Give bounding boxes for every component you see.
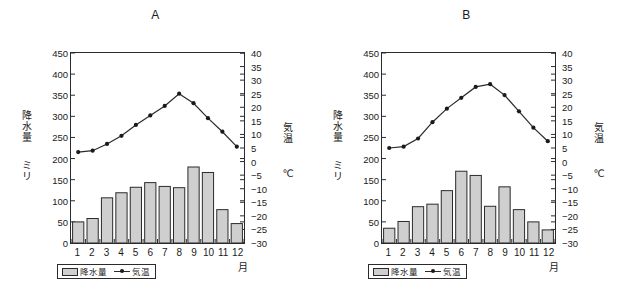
bar-swatch-icon bbox=[373, 268, 389, 276]
x-axis-unit-b: 月 bbox=[549, 259, 559, 274]
y-tick-label: 350 bbox=[349, 90, 379, 101]
precipitation-bar bbox=[145, 183, 156, 243]
x-tick-label: 2 bbox=[85, 247, 100, 261]
x-tick-label: 9 bbox=[498, 247, 513, 261]
y-tick-label: −5 bbox=[251, 170, 281, 181]
chart-title-b: B bbox=[311, 8, 622, 22]
precipitation-bar bbox=[231, 224, 242, 243]
y-axis-ticks-right-a: −30−25−20−15−10−50510152025303540 bbox=[247, 52, 277, 244]
y-axis-unit-right-b: ℃ bbox=[592, 168, 606, 179]
x-tick-label: 1 bbox=[381, 247, 396, 261]
y-tick-label: 40 bbox=[562, 48, 592, 59]
y-tick-label: 100 bbox=[38, 195, 68, 206]
precipitation-bar bbox=[499, 187, 510, 243]
temperature-marker bbox=[163, 104, 167, 108]
precipitation-bar bbox=[528, 222, 539, 243]
temperature-marker bbox=[191, 101, 195, 105]
y-tick-label: 0 bbox=[38, 238, 68, 249]
x-tick-label: 3 bbox=[410, 247, 425, 261]
y-tick-label: 50 bbox=[349, 216, 379, 227]
legend-item-temperature-b: 気温 bbox=[425, 267, 461, 277]
y-tick-label: 450 bbox=[38, 48, 68, 59]
temperature-marker bbox=[220, 130, 224, 134]
y-tick-label: 30 bbox=[562, 75, 592, 86]
y-tick-label: 150 bbox=[349, 174, 379, 185]
precipitation-bar bbox=[217, 210, 228, 243]
y-tick-label: −15 bbox=[562, 197, 592, 208]
climograph-figure: A 降水量 ミリ 気温 ℃ 05010015020025030035040045… bbox=[0, 0, 622, 300]
precipitation-bar bbox=[174, 188, 185, 243]
y-tick-label: 15 bbox=[251, 115, 281, 126]
temperature-marker bbox=[206, 116, 210, 120]
y-tick-label: 10 bbox=[251, 129, 281, 140]
temperature-marker bbox=[517, 109, 521, 113]
temperature-marker bbox=[177, 92, 181, 96]
y-tick-label: 300 bbox=[38, 111, 68, 122]
temperature-marker bbox=[445, 107, 449, 111]
line-marker-icon bbox=[425, 269, 441, 275]
legend-label-precipitation: 降水量 bbox=[391, 267, 418, 277]
temperature-marker bbox=[459, 96, 463, 100]
chart-title-a: A bbox=[0, 8, 311, 22]
line-marker-icon bbox=[114, 269, 130, 275]
y-tick-label: 15 bbox=[562, 115, 592, 126]
x-axis-unit-a: 月 bbox=[238, 259, 248, 274]
precipitation-bar bbox=[470, 175, 481, 243]
temperature-marker bbox=[502, 93, 506, 97]
y-tick-label: 400 bbox=[349, 69, 379, 80]
temperature-marker bbox=[235, 145, 239, 149]
y-tick-label: 300 bbox=[349, 111, 379, 122]
y-axis-title-left-b: 降水量 bbox=[331, 110, 345, 143]
x-tick-label: 9 bbox=[187, 247, 202, 261]
y-tick-label: 30 bbox=[251, 75, 281, 86]
precipitation-bar bbox=[513, 210, 524, 243]
y-tick-label: 50 bbox=[38, 216, 68, 227]
y-tick-label: 20 bbox=[251, 102, 281, 113]
chart-panel-b: B 降水量 ミリ 気温 ℃ 05010015020025030035040045… bbox=[311, 0, 622, 300]
plot-area-a bbox=[70, 52, 245, 244]
y-tick-label: −25 bbox=[251, 224, 281, 235]
temperature-marker bbox=[430, 120, 434, 124]
x-tick-label: 7 bbox=[157, 247, 172, 261]
y-tick-label: 5 bbox=[251, 143, 281, 154]
x-tick-label: 10 bbox=[512, 247, 527, 261]
temperature-marker bbox=[402, 145, 406, 149]
y-tick-label: −30 bbox=[251, 238, 281, 249]
x-tick-label: 2 bbox=[396, 247, 411, 261]
precipitation-bar bbox=[101, 198, 112, 243]
y-tick-label: 40 bbox=[251, 48, 281, 59]
precipitation-bar bbox=[542, 230, 553, 243]
y-tick-label: 150 bbox=[38, 174, 68, 185]
temperature-line bbox=[78, 94, 237, 152]
x-tick-label: 11 bbox=[216, 247, 231, 261]
legend-item-precipitation-b: 降水量 bbox=[373, 267, 418, 277]
temperature-marker bbox=[105, 142, 109, 146]
legend-item-precipitation-a: 降水量 bbox=[62, 267, 107, 277]
x-tick-label: 5 bbox=[128, 247, 143, 261]
y-axis-title-right-b: 気温 bbox=[592, 122, 606, 144]
precipitation-bar bbox=[202, 172, 213, 243]
precipitation-bar bbox=[116, 193, 127, 243]
y-tick-label: 0 bbox=[349, 238, 379, 249]
x-tick-label: 1 bbox=[70, 247, 85, 261]
precipitation-bar bbox=[73, 222, 84, 243]
y-tick-label: −20 bbox=[251, 210, 281, 221]
y-tick-label: 200 bbox=[38, 153, 68, 164]
y-tick-label: 5 bbox=[562, 143, 592, 154]
x-tick-label: 8 bbox=[172, 247, 187, 261]
precipitation-bar bbox=[412, 207, 423, 243]
y-tick-label: −15 bbox=[251, 197, 281, 208]
x-tick-label: 3 bbox=[99, 247, 114, 261]
bar-swatch-icon bbox=[62, 268, 78, 276]
temperature-marker bbox=[148, 113, 152, 117]
y-axis-unit-left-a: ミリ bbox=[20, 160, 34, 182]
precipitation-bar bbox=[159, 186, 170, 243]
x-tick-label: 4 bbox=[114, 247, 129, 261]
y-tick-label: −10 bbox=[251, 183, 281, 194]
y-tick-label: −5 bbox=[562, 170, 592, 181]
legend-label-temperature: 気温 bbox=[443, 267, 461, 277]
y-tick-label: 20 bbox=[562, 102, 592, 113]
y-tick-label: −10 bbox=[562, 183, 592, 194]
temperature-line bbox=[389, 84, 548, 148]
precipitation-bar bbox=[130, 187, 141, 243]
